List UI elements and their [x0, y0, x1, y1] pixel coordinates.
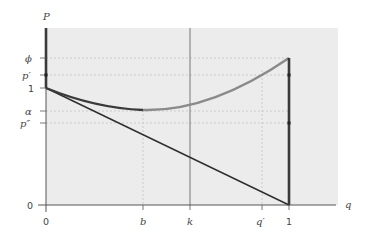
- x-tick-k: k: [187, 216, 193, 227]
- x-ticks: [143, 205, 289, 210]
- y-tick-one: 1: [28, 83, 34, 94]
- diagram-canvas: P q ϕ p′ 1 α p″ 0 0 b k q′ 1: [0, 0, 366, 242]
- x-tick-one: 1: [286, 216, 292, 227]
- x-tick-zero: 0: [43, 216, 49, 227]
- marker-y-p-prime: [45, 74, 48, 77]
- x-tick-b: b: [140, 216, 146, 227]
- y-tick-p-prime: p′: [22, 70, 31, 81]
- marker-p-double-prime: [288, 122, 291, 125]
- y-tick-phi: ϕ: [25, 53, 32, 64]
- x-axis-label: q: [345, 199, 351, 210]
- x-tick-q-prime: q′: [256, 216, 265, 227]
- y-tick-zero: 0: [27, 200, 33, 211]
- y-axis-label: P: [42, 11, 50, 22]
- plot-area: [46, 28, 338, 205]
- y-tick-alpha: α: [25, 106, 32, 117]
- y-tick-p-double-prime: p″: [20, 118, 30, 129]
- marker-p-prime: [288, 74, 291, 77]
